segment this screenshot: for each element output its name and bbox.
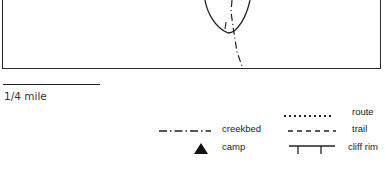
legend-camp-label: camp <box>222 141 245 152</box>
trail-symbol <box>287 128 337 134</box>
scale-bar <box>3 84 100 85</box>
scale-label: 1/4 mile <box>4 90 47 102</box>
legend-trail-label: trail <box>352 123 367 134</box>
cliff-rim-path <box>205 0 250 33</box>
map-drawing <box>0 0 386 72</box>
route-symbol <box>283 113 333 119</box>
creekbed-symbol <box>158 128 212 134</box>
legend-route-label: route <box>352 106 374 117</box>
camp-triangle-icon <box>193 142 209 155</box>
legend-creekbed-label: creekbed <box>222 123 261 134</box>
cliff-rim-symbol <box>288 144 336 156</box>
creekbed-path <box>231 0 243 69</box>
legend-cliff-rim-label: cliff rim <box>348 141 378 152</box>
